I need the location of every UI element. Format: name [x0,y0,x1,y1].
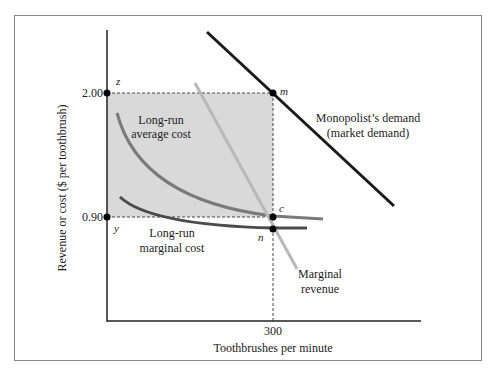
point-z [104,90,111,97]
demand-label-line1: Monopolist’s demand [316,111,420,125]
y-tick-0-90: 0.90 [82,210,103,224]
demand-label-line2: (market demand) [327,126,409,140]
mc-label-line2: marginal cost [140,241,205,255]
label-y: y [113,222,119,234]
mr-label-line1: Marginal [298,267,342,281]
profit-rectangle [107,93,273,217]
y-axis-title: Revenue or cost ($ per toothbrush) [55,105,69,272]
point-m [270,90,277,97]
atc-label-line1: Long-run [138,113,183,127]
mr-label-line2: revenue [301,282,339,296]
point-c [270,214,277,221]
label-m: m [280,85,288,97]
label-n: n [258,231,264,243]
point-n [270,226,277,233]
label-z: z [115,75,121,87]
y-tick-2-00: 2.00 [82,86,103,100]
x-axis-title: Toothbrushes per minute [213,341,332,355]
label-c: c [279,202,284,214]
mc-label-line1: Long-run [149,226,194,240]
x-tick-300: 300 [264,324,282,338]
monopoly-diagram: 2.00 0.90 300 z m y c n Monopolist’s dem… [0,0,493,381]
atc-label-line2: average cost [131,127,191,141]
point-y [104,214,111,221]
